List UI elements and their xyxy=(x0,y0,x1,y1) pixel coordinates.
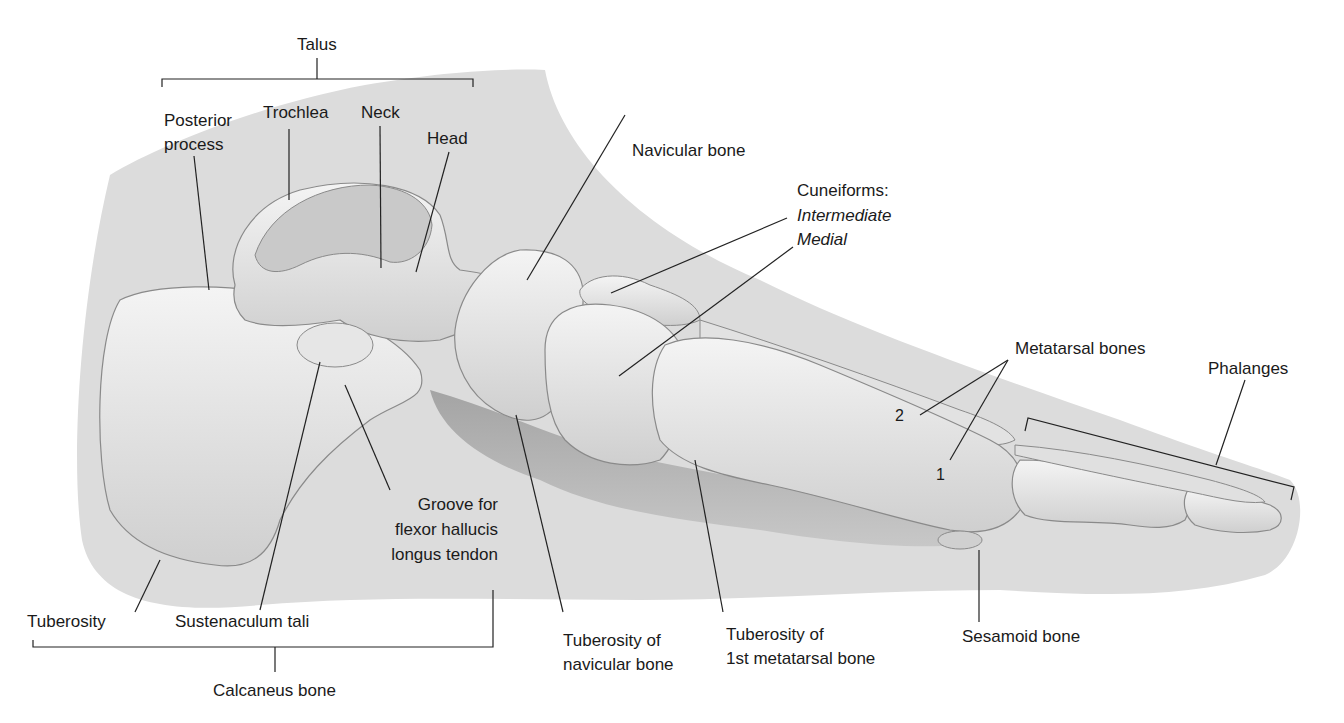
label-groove-line1: Groove for xyxy=(368,494,498,516)
label-metatarsal-1: 1 xyxy=(936,466,945,484)
label-sustentaculum-tali: Sustenaculum tali xyxy=(175,611,309,633)
label-groove-line3: longus tendon xyxy=(328,544,498,566)
label-trochlea: Trochlea xyxy=(263,102,329,124)
label-tuberosity-navicular-line1: Tuberosity of xyxy=(563,630,661,652)
label-tuberosity-metatarsal-line1: Tuberosity of xyxy=(726,624,824,646)
label-metatarsal-2: 2 xyxy=(895,407,904,425)
label-posterior-process-line2: process xyxy=(164,134,224,156)
label-metatarsal-bones: Metatarsal bones xyxy=(1015,338,1145,360)
label-cuneiforms: Cuneiforms: xyxy=(797,180,889,202)
sustentaculum-shape xyxy=(297,323,373,367)
label-tuberosity-navicular-line2: navicular bone xyxy=(563,654,674,676)
label-cuneiform-intermediate: Intermediate xyxy=(797,205,892,227)
sesamoid-shape xyxy=(938,531,982,549)
label-navicular-bone: Navicular bone xyxy=(632,140,745,162)
label-calcaneus-bone: Calcaneus bone xyxy=(213,680,336,702)
label-cuneiform-medial: Medial xyxy=(797,229,847,251)
label-posterior-process-line1: Posterior xyxy=(164,110,232,132)
label-tuberosity: Tuberosity xyxy=(27,611,106,633)
label-groove-line2: flexor hallucis xyxy=(338,519,498,541)
label-phalanges: Phalanges xyxy=(1208,358,1288,380)
label-head: Head xyxy=(427,128,468,150)
label-neck: Neck xyxy=(361,102,400,124)
label-sesamoid-bone: Sesamoid bone xyxy=(962,626,1080,648)
label-talus: Talus xyxy=(297,34,337,56)
label-tuberosity-metatarsal-line2: 1st metatarsal bone xyxy=(726,648,875,670)
